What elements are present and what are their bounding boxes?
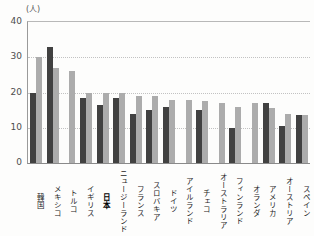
bar-group-韓国	[28, 22, 45, 163]
light-series-bar	[136, 96, 142, 163]
bar-group-オーストリア	[277, 22, 294, 163]
bar-group-フランス	[128, 22, 145, 163]
light-series-bar	[202, 101, 208, 163]
x-label-オーストリア: オーストリア	[276, 166, 293, 236]
bar-group-メキシコ	[45, 22, 62, 163]
bar-group-チェコ	[194, 22, 211, 163]
light-series-bar	[302, 115, 308, 163]
bar-group-イギリス	[78, 22, 95, 163]
x-label-ドイツ: ドイツ	[160, 166, 177, 236]
x-label-ニュージーランド: ニュージーランド	[110, 166, 127, 236]
light-series-bar	[69, 71, 75, 163]
x-label-イギリス: イギリス	[77, 166, 94, 236]
bar-chart: (人) 403020100 韓国メキシコトルコイギリス日本ニュージーランドフラン…	[0, 0, 314, 236]
light-series-bar	[285, 114, 291, 163]
bar-group-ドイツ	[161, 22, 178, 163]
x-label-アメリカ: アメリカ	[259, 166, 276, 236]
x-label-メキシコ: メキシコ	[44, 166, 61, 236]
light-series-bar	[86, 93, 92, 164]
bar-group-アメリカ	[260, 22, 277, 163]
bar-group-ニュージーランド	[111, 22, 128, 163]
x-label-トルコ: トルコ	[60, 166, 77, 236]
bar-group-日本	[94, 22, 111, 163]
x-label-日本: 日本	[93, 166, 110, 236]
x-axis-labels: 韓国メキシコトルコイギリス日本ニュージーランドフランススロバキアドイツアイルラン…	[27, 166, 309, 236]
bar-group-オーストラリア	[211, 22, 228, 163]
bar-group-トルコ	[61, 22, 78, 163]
light-series-bar	[235, 107, 241, 163]
x-label-スペイン: スペイン	[293, 166, 310, 236]
bar-group-フィンランド	[227, 22, 244, 163]
x-label-フィンランド: フィンランド	[226, 166, 243, 236]
light-series-bar	[186, 100, 192, 163]
bar-group-スロバキア	[144, 22, 161, 163]
bar-group-オランダ	[244, 22, 261, 163]
light-series-bar	[36, 57, 42, 163]
y-tick-label: 30	[0, 51, 22, 61]
y-tick-label: 40	[0, 16, 22, 26]
y-axis-unit-label: (人)	[26, 3, 40, 14]
light-series-bar	[269, 108, 275, 163]
plot-area	[27, 21, 310, 164]
y-tick-label: 0	[0, 157, 22, 167]
light-series-bar	[103, 93, 109, 164]
x-label-オランダ: オランダ	[243, 166, 260, 236]
light-series-bar	[219, 103, 225, 163]
light-series-bar	[252, 103, 258, 163]
bars-container	[28, 22, 310, 163]
y-tick-label: 10	[0, 122, 22, 132]
x-label-フランス: フランス	[127, 166, 144, 236]
x-label-アイルランド: アイルランド	[176, 166, 193, 236]
bar-group-アイルランド	[177, 22, 194, 163]
light-series-bar	[152, 96, 158, 163]
y-tick-label: 20	[0, 87, 22, 97]
x-label-スロバキア: スロバキア	[143, 166, 160, 236]
light-series-bar	[119, 93, 125, 164]
x-label-オーストラリア: オーストラリア	[210, 166, 227, 236]
x-label-韓国: 韓国	[27, 166, 44, 236]
x-label-チェコ: チェコ	[193, 166, 210, 236]
light-series-bar	[53, 68, 59, 163]
bar-group-スペイン	[294, 22, 311, 163]
light-series-bar	[169, 100, 175, 163]
